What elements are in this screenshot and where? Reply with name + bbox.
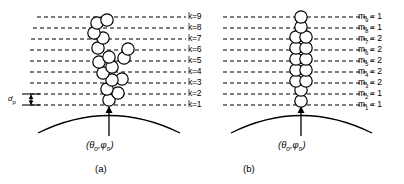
occupancy-label-m4: m4 = 2: [358, 66, 382, 78]
occupancy-label-m1: m1 = 1: [358, 99, 382, 111]
incidence-arrow-b: [298, 106, 305, 136]
theta-subscript: o: [286, 145, 290, 152]
occupancy-value: 2: [377, 33, 382, 43]
dp-dimension-marker: [22, 94, 40, 105]
phi-subscript: o: [299, 145, 303, 152]
coord-label-b: (θo,φo): [278, 139, 306, 152]
occupancy-label-m6: m6 = 2: [358, 44, 382, 56]
level-label-k6: k=6: [188, 44, 201, 54]
occupancy-value: 2: [377, 44, 382, 54]
occupancy-label-m8: m8 = 1: [358, 22, 382, 34]
occupancy-label-m3: m3 = 2: [358, 77, 382, 89]
occupancy-label-m9: m9 = 1: [358, 11, 382, 23]
occupancy-value: 1: [377, 22, 382, 32]
level-label-k1: k=1: [188, 99, 201, 109]
panel-caption-a: (a): [95, 163, 107, 174]
particle: [103, 51, 115, 63]
occupancy-label-m2: m2 = 1: [358, 88, 382, 100]
level-label-k9: k=9: [188, 11, 201, 21]
coord-label-a: (θo,φo): [86, 139, 114, 152]
level-label-k2: k=2: [188, 88, 201, 98]
occupancy-label-m5: m5 = 2: [358, 55, 382, 67]
panel-caption-b: (b): [243, 163, 255, 174]
occupancy-value: 2: [377, 66, 382, 76]
theta-subscript: o: [94, 145, 98, 152]
occupancy-value: 1: [377, 11, 382, 21]
level-label-k7: k=7: [188, 33, 201, 43]
level-label-k5: k=5: [188, 55, 201, 65]
occupancy-label-m7: m7 = 2: [358, 33, 382, 45]
level-label-k3: k=3: [188, 77, 201, 87]
panel-b-particles: [290, 11, 312, 107]
particle: [295, 11, 307, 23]
occupancy-subscript: 1: [365, 105, 368, 111]
incidence-arrow-a: [106, 106, 113, 136]
figure-canvas: [0, 0, 404, 184]
dp-label: dp: [8, 94, 16, 105]
occupancy-value: 2: [377, 55, 382, 65]
level-label-k4: k=4: [188, 66, 201, 76]
level-label-k8: k=8: [188, 22, 201, 32]
occupancy-value: 1: [377, 99, 382, 109]
particle: [122, 43, 134, 55]
occupancy-value: 1: [377, 88, 382, 98]
occupancy-value: 2: [377, 77, 382, 87]
phi-subscript: o: [107, 145, 111, 152]
deposition-layer-figure: k=9 k=8 k=7 k=6 k=5 k=4 k=3 k=2 k=1 m9 =…: [0, 0, 404, 184]
particle: [101, 14, 113, 26]
dp-subscript: p: [12, 99, 15, 105]
